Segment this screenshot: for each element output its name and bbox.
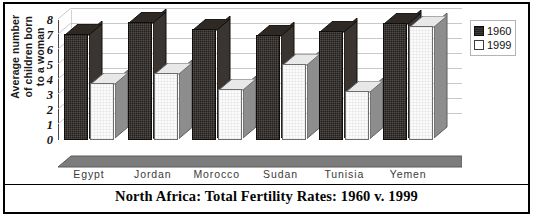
y-axis-tick-label: 5 <box>37 58 53 73</box>
bar-morocco-1960[interactable] <box>192 29 216 140</box>
x-axis-tick-label-sudan: Sudan <box>246 168 316 180</box>
bar-tunisia-1999[interactable] <box>345 91 369 141</box>
bar-front-face <box>154 73 178 141</box>
bar-jordan-1999[interactable] <box>154 73 178 141</box>
y-axis-tick-label: 4 <box>37 73 53 88</box>
bar-series-container <box>58 10 462 168</box>
bar-egypt-1960[interactable] <box>64 34 88 141</box>
bar-sudan-1999[interactable] <box>282 64 306 141</box>
y-axis-tick-label: 3 <box>37 88 53 103</box>
bar-front-face <box>218 89 242 140</box>
bar-front-face <box>383 23 407 140</box>
bar-front-face <box>256 35 280 140</box>
bar-front-face <box>90 83 114 140</box>
bar-front-face <box>64 34 88 141</box>
legend-swatch-1960 <box>474 26 484 36</box>
legend-item-1999[interactable]: 1999 <box>474 38 511 52</box>
bar-yemen-1960[interactable] <box>383 23 407 140</box>
bar-group <box>128 10 192 140</box>
y-axis-tick-label: 0 <box>37 133 53 148</box>
bar-front-face <box>345 91 369 141</box>
bar-group <box>64 10 128 140</box>
legend-label-1999: 1999 <box>487 39 511 51</box>
y-axis-tick-label: 8 <box>37 13 53 28</box>
legend: 19601999 <box>470 20 516 56</box>
bar-egypt-1999[interactable] <box>90 83 114 140</box>
bar-yemen-1999[interactable] <box>409 26 433 140</box>
y-axis-title-line-1: Average number <box>9 0 22 132</box>
x-axis-tick-label-jordan: Jordan <box>118 168 188 180</box>
legend-swatch-1999 <box>474 40 484 50</box>
chart-figure: Average number of children born to a wom… <box>0 0 533 218</box>
bar-front-face <box>282 64 306 141</box>
y-axis-tick-label: 2 <box>37 103 53 118</box>
x-axis-tick-label-morocco: Morocco <box>182 168 252 180</box>
bar-front-face <box>128 22 152 141</box>
chart-title: North Africa: Total Fertility Rates: 196… <box>5 188 528 205</box>
bar-jordan-1960[interactable] <box>128 22 152 141</box>
x-axis-tick-labels: EgyptJordanMoroccoSudanTunisiaYemen <box>58 168 462 184</box>
bar-sudan-1960[interactable] <box>256 35 280 140</box>
y-axis-tick-label: 6 <box>37 43 53 58</box>
x-axis-tick-label-yemen: Yemen <box>373 168 443 180</box>
bar-front-face <box>319 31 343 140</box>
y-axis-title-line-2: of children born <box>22 0 35 132</box>
title-divider <box>5 184 528 185</box>
y-axis-tick-label: 1 <box>37 118 53 133</box>
legend-label-1960: 1960 <box>487 25 511 37</box>
bar-group <box>192 10 256 140</box>
gridline <box>71 8 462 9</box>
bar-group <box>319 10 383 140</box>
bar-front-face <box>409 26 433 140</box>
bar-group <box>256 10 320 140</box>
bar-tunisia-1960[interactable] <box>319 31 343 140</box>
bar-front-face <box>192 29 216 140</box>
y-axis-tick-label: 7 <box>37 28 53 43</box>
x-axis-tick-label-tunisia: Tunisia <box>309 168 379 180</box>
legend-item-1960[interactable]: 1960 <box>474 24 511 38</box>
x-axis-tick-label-egypt: Egypt <box>54 168 124 180</box>
bar-morocco-1999[interactable] <box>218 89 242 140</box>
plot-area: 012345678 <box>58 10 462 168</box>
bar-group <box>383 10 447 140</box>
